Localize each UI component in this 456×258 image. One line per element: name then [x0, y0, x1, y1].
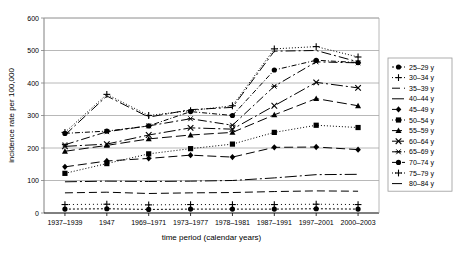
- legend-label: 55–59 y: [409, 127, 434, 135]
- legend-label: 70–74 y: [409, 159, 434, 167]
- y-tick-label: 500: [27, 47, 39, 54]
- marker-square: [62, 171, 67, 176]
- marker-square: [272, 130, 277, 135]
- legend-label: 80–84 y: [409, 180, 434, 188]
- marker-square: [188, 146, 193, 151]
- marker-circle: [104, 129, 109, 134]
- marker-square: [230, 142, 235, 147]
- legend-label: 35–39 y: [409, 85, 434, 93]
- x-tick-label: 1947: [99, 219, 115, 226]
- chart-canvas: 01002003004005006001937–193919471969–197…: [0, 0, 456, 258]
- y-tick-label: 100: [27, 177, 39, 184]
- legend-label: 75–79 y: [409, 170, 434, 178]
- legend-label: 25–29 y: [409, 64, 434, 72]
- legend-label: 65–69 y: [409, 148, 434, 156]
- legend-label: 50–54 y: [409, 117, 434, 125]
- legend-label: 60–64 y: [409, 138, 434, 146]
- marker-circle: [230, 113, 235, 118]
- marker-square: [146, 151, 151, 156]
- y-tick-label: 200: [27, 145, 39, 152]
- x-tick-label: 1969–1971: [131, 219, 166, 226]
- y-tick-label: 400: [27, 80, 39, 87]
- marker-square: [355, 125, 360, 130]
- chart-figure: 01002003004005006001937–193919471969–197…: [0, 0, 456, 258]
- marker-circle: [396, 160, 401, 165]
- marker-circle: [314, 58, 319, 63]
- legend-label: 40–44 y: [409, 95, 434, 103]
- x-tick-label: 1937–1939: [47, 219, 82, 226]
- x-axis-title: time period (calendar years): [162, 233, 262, 242]
- y-axis-title: incidence rate per 100,000: [7, 68, 16, 163]
- legend-label: 45–49 y: [409, 106, 434, 114]
- x-tick-label: 1978–1981: [215, 219, 250, 226]
- marker-square: [314, 123, 319, 128]
- marker-circle: [146, 123, 151, 128]
- x-tick-label: 1973–1977: [173, 219, 208, 226]
- marker-circle: [396, 64, 401, 69]
- y-tick-label: 0: [35, 210, 39, 217]
- marker-square: [104, 161, 109, 166]
- legend-label: 30–34 y: [409, 74, 434, 82]
- x-tick-label: 1997–2001: [299, 219, 334, 226]
- marker-circle: [355, 60, 360, 65]
- y-tick-label: 600: [27, 15, 39, 22]
- marker-circle: [272, 67, 277, 72]
- x-tick-label: 1987–1991: [257, 219, 292, 226]
- marker-square: [396, 117, 401, 122]
- x-tick-label: 2000–2003: [341, 219, 376, 226]
- y-tick-label: 300: [27, 112, 39, 119]
- legend: 25–29 y30–34 y35–39 y40–44 y45–49 y50–54…: [388, 58, 452, 191]
- legend-item[interactable]: 30–34 y: [392, 74, 434, 82]
